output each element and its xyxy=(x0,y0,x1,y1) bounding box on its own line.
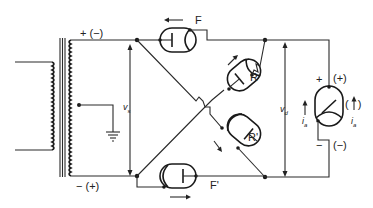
transformer-core xyxy=(60,38,65,177)
diode-label-r: R xyxy=(250,72,258,83)
diode-r-prime xyxy=(222,109,265,151)
load-top-polarity-alt: (+) xyxy=(333,73,347,84)
diode-label-r-prime: R' xyxy=(248,132,258,143)
diode-f-prime xyxy=(137,164,265,200)
wire-diagonal-down xyxy=(137,40,222,128)
bottom-polarity-label: − (+) xyxy=(76,181,99,192)
load-bottom-polarity: − xyxy=(316,140,322,151)
ground-connection xyxy=(77,103,120,141)
primary-winding xyxy=(15,62,54,150)
schematic xyxy=(0,0,373,208)
load-bottom-polarity-alt: (−) xyxy=(333,140,347,151)
vd-label: vd xyxy=(280,105,288,116)
vs-label: vs xyxy=(123,103,131,114)
arrow-r-prime xyxy=(214,141,220,149)
load-diode xyxy=(265,40,343,177)
diode-label-f-prime: F' xyxy=(210,180,219,191)
ia-alt-label: ia xyxy=(351,117,356,128)
ia-label: ia xyxy=(302,117,307,128)
diode-label-f: F xyxy=(195,15,202,26)
wire-diagonal-up xyxy=(137,90,224,176)
ia-arrow xyxy=(303,100,308,115)
ia-alt-paren-left: ( ) xyxy=(345,99,362,110)
bridge-rectifier-diagram: + (−) − (+) vs F R R' F' vd + (+) − (−) … xyxy=(0,0,373,208)
load-top-polarity: + xyxy=(316,74,322,85)
top-polarity-label: + (−) xyxy=(80,28,103,39)
